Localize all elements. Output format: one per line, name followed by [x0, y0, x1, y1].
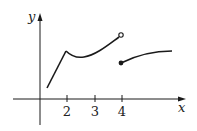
y-axis-arrow-icon [38, 13, 43, 21]
y-axis-label: y [27, 9, 36, 24]
graph-figure: 2 3 4 x y [0, 0, 197, 131]
curve-piece-3 [121, 51, 172, 63]
curve-piece-2 [66, 37, 119, 57]
open-endpoint-marker [119, 33, 123, 37]
graph-svg: 2 3 4 x y [0, 0, 197, 131]
x-tick-label-2: 2 [63, 104, 71, 119]
closed-endpoint-marker [119, 61, 124, 66]
curve-piece-1 [47, 51, 66, 88]
x-tick-label-4: 4 [118, 104, 126, 119]
x-axis-label: x [178, 100, 186, 115]
x-tick-label-3: 3 [91, 104, 99, 119]
